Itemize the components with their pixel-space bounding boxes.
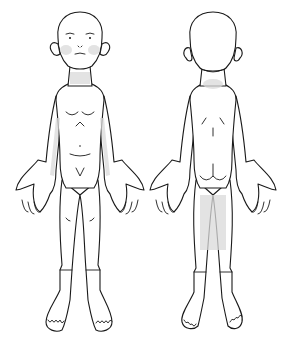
back-left-ear	[184, 48, 192, 61]
back-right-arm	[230, 96, 276, 212]
front-left-eye	[69, 37, 71, 39]
front-navel	[79, 145, 81, 147]
front-right-cheek-shade	[88, 45, 100, 55]
back-view	[150, 12, 276, 329]
front-right-eye	[89, 37, 91, 39]
front-right-ear	[100, 43, 110, 56]
front-head	[58, 12, 103, 69]
back-right-ear	[234, 48, 242, 61]
back-legs-shade	[200, 195, 226, 250]
front-left-ear	[50, 43, 60, 56]
body-chart-svg	[0, 0, 289, 350]
front-view	[16, 12, 144, 331]
back-head	[190, 12, 237, 71]
front-right-leg	[80, 180, 112, 331]
back-left-arm	[150, 96, 196, 212]
front-left-cheek-shade	[60, 45, 72, 55]
front-neck-shade	[70, 72, 90, 84]
front-torso	[56, 84, 104, 188]
front-left-leg	[46, 180, 80, 331]
back-nape-shade	[203, 79, 223, 89]
body-chart	[0, 0, 289, 350]
